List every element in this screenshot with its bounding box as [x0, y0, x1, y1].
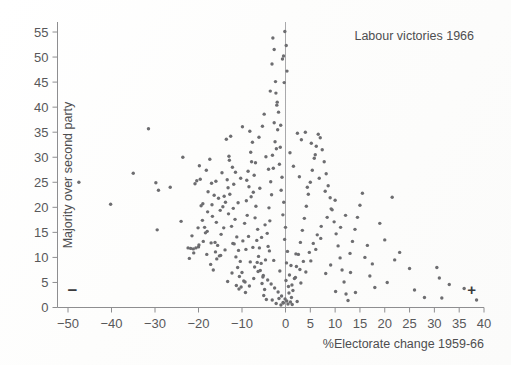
data-point [304, 270, 307, 273]
data-point [319, 237, 322, 240]
data-point [326, 184, 329, 187]
data-point [307, 193, 310, 196]
data-point [311, 169, 314, 172]
data-point [272, 167, 275, 170]
data-point [269, 282, 272, 285]
y-tick-label: 0 [41, 300, 48, 315]
y-tick-label: 50 [34, 50, 48, 65]
data-point [281, 213, 284, 216]
data-point [238, 275, 241, 278]
data-point [206, 210, 209, 213]
data-point [241, 239, 244, 242]
data-point [438, 276, 441, 279]
data-point [249, 195, 252, 198]
data-point [109, 203, 112, 206]
data-point [291, 289, 294, 292]
data-point [286, 250, 289, 253]
data-point [386, 281, 389, 284]
data-point [310, 142, 313, 145]
data-point [248, 284, 251, 287]
x-tick-label: 15 [353, 316, 367, 331]
data-point [235, 235, 238, 238]
data-point [262, 274, 265, 277]
data-point [198, 164, 201, 167]
data-point [232, 183, 235, 186]
data-point [236, 201, 239, 204]
data-point [239, 260, 242, 263]
data-point [132, 172, 135, 175]
data-point [264, 155, 267, 158]
data-point [278, 163, 281, 166]
data-point [342, 280, 345, 283]
data-point [378, 222, 381, 225]
x-tick-label: 30 [427, 316, 441, 331]
data-point [234, 171, 237, 174]
data-point [224, 201, 227, 204]
y-tick-label: 10 [34, 250, 48, 265]
data-point [226, 280, 229, 283]
data-point [257, 136, 260, 139]
data-point [267, 168, 270, 171]
data-point [210, 203, 213, 206]
data-point [314, 248, 317, 251]
data-point [279, 189, 282, 192]
data-point [147, 127, 150, 130]
data-point [252, 277, 255, 280]
data-point [202, 240, 205, 243]
data-point [220, 171, 223, 174]
data-point [269, 180, 272, 183]
data-point [214, 180, 217, 183]
data-point [269, 89, 272, 92]
data-point [371, 262, 374, 265]
data-point [328, 196, 331, 199]
data-point [257, 255, 260, 258]
data-point [368, 274, 371, 277]
data-point [319, 136, 322, 139]
data-point [181, 156, 184, 159]
x-tick-label: 25 [402, 316, 416, 331]
data-point [273, 286, 276, 289]
data-point [398, 251, 401, 254]
data-point [268, 249, 271, 252]
data-point [353, 228, 356, 231]
data-point [190, 234, 193, 237]
data-point [209, 241, 212, 244]
x-tick-label: −10 [231, 316, 253, 331]
data-point [225, 138, 228, 141]
data-point [285, 69, 288, 72]
data-point [296, 131, 299, 134]
data-point [408, 267, 411, 270]
x-tick-label: 40 [477, 316, 491, 331]
data-point [270, 62, 273, 65]
data-point [258, 187, 261, 190]
data-point [154, 181, 157, 184]
data-point [334, 232, 337, 235]
data-point [211, 215, 214, 218]
x-tick-label: 20 [378, 316, 392, 331]
data-point [285, 44, 288, 47]
data-point [315, 145, 318, 148]
data-point [295, 300, 298, 303]
data-point [278, 269, 281, 272]
data-point [290, 283, 293, 286]
data-point [252, 191, 255, 194]
data-point [346, 299, 349, 302]
data-point [317, 133, 320, 136]
data-point [246, 170, 249, 173]
data-point [241, 125, 244, 128]
data-point [199, 178, 202, 181]
data-point [239, 177, 242, 180]
data-point [229, 135, 232, 138]
data-point [188, 257, 191, 260]
data-point [196, 226, 199, 229]
data-point [267, 206, 270, 209]
data-point [228, 159, 231, 162]
y-tick-label: 35 [34, 125, 48, 140]
data-point [253, 265, 256, 268]
data-point [204, 231, 207, 234]
data-point [266, 232, 269, 235]
data-point [227, 155, 230, 158]
data-point [254, 161, 257, 164]
data-point [332, 220, 335, 223]
data-point [277, 297, 280, 300]
